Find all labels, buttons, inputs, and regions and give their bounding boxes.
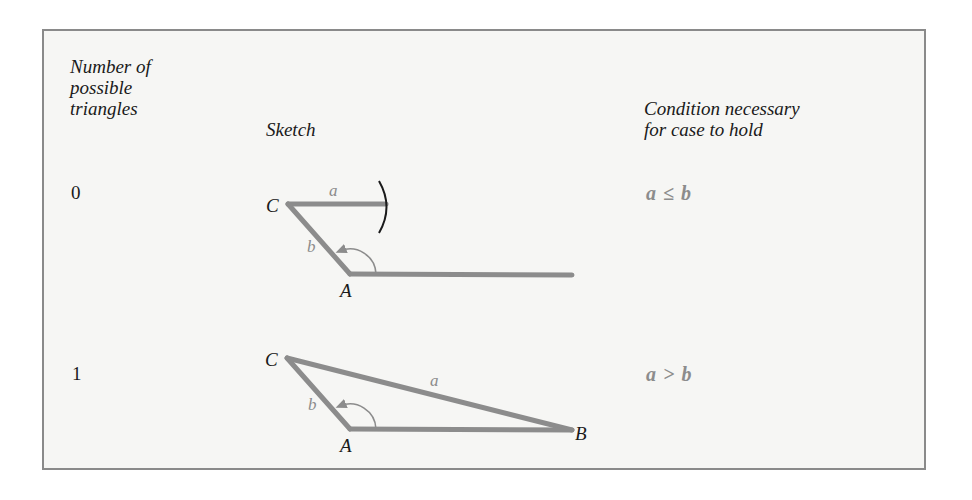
vertex-label-c: C <box>266 195 279 216</box>
swing-arc <box>379 181 387 233</box>
side-label-a: a <box>329 181 338 200</box>
sketch-one-triangle: C A B a b <box>265 349 587 456</box>
vertex-label-a: A <box>338 435 352 456</box>
base-line <box>350 274 572 275</box>
triangle-sketches: C A a b C A B a b <box>0 0 972 500</box>
side-b-line <box>288 204 350 274</box>
side-b-line <box>287 358 350 429</box>
vertex-label-c: C <box>265 349 278 370</box>
side-label-b: b <box>307 237 316 256</box>
side-a-line <box>287 358 572 430</box>
side-label-a: a <box>430 371 439 390</box>
vertex-label-b: B <box>575 423 587 444</box>
base-line <box>350 429 572 430</box>
side-label-b: b <box>308 395 317 414</box>
sketch-no-triangle: C A a b <box>266 181 572 301</box>
vertex-label-a: A <box>338 280 352 301</box>
